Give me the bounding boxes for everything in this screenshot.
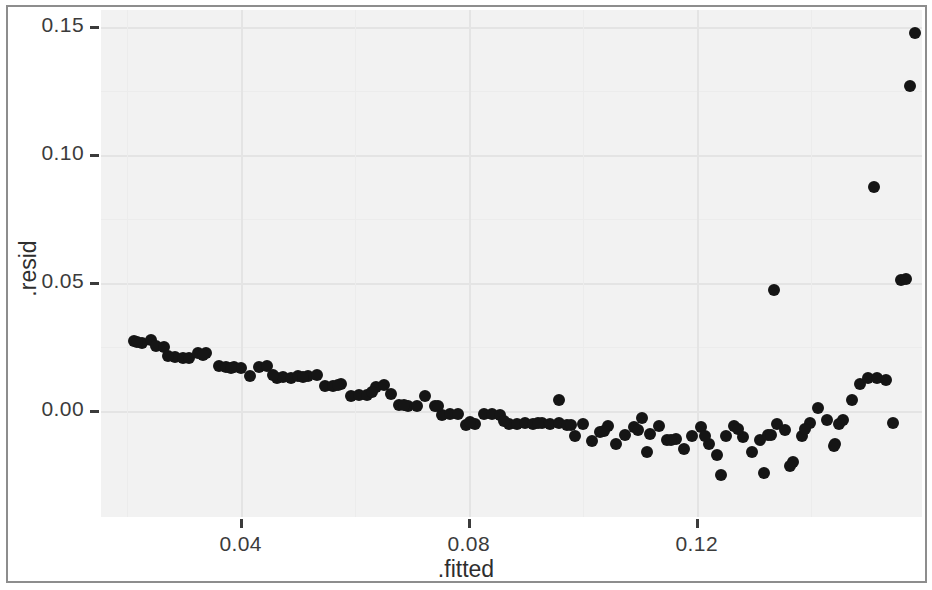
data-point [732,423,744,435]
data-point [900,273,912,285]
data-point [678,443,690,455]
data-point [821,414,833,426]
x-tick-label: 0.12 [676,532,718,556]
gridline-horizontal-major [101,283,922,285]
data-point [225,362,237,374]
gridline-horizontal-major [101,411,922,413]
data-point [411,400,423,412]
data-point [846,394,858,406]
data-point [904,80,916,92]
data-point [880,374,892,386]
data-point [311,369,323,381]
data-point [332,379,344,391]
data-point [131,336,143,348]
data-point [569,430,581,442]
data-point [653,420,665,432]
gridline-vertical-minor [583,10,584,517]
data-point [765,429,777,441]
data-point [565,419,577,431]
gridline-horizontal-major [101,27,922,29]
x-axis-label: .fitted [0,556,932,583]
gridline-vertical-major [241,10,243,517]
data-point [577,418,589,430]
y-tick-label: 0.10 [0,141,84,165]
data-point [720,430,732,442]
data-point [887,417,899,429]
y-tick-label: 0.15 [0,13,84,37]
data-point [366,386,378,398]
plot-panel [101,10,922,517]
data-point [828,440,840,452]
gridline-vertical-major [469,10,471,517]
data-point [498,415,510,427]
y-axis-label: .resid [15,214,42,324]
data-point [779,424,791,436]
data-point [746,446,758,458]
gridline-horizontal-minor [101,347,922,348]
gridline-horizontal-major [101,155,922,157]
figure-border-right [925,5,927,583]
data-point [758,467,770,479]
data-point [586,435,598,447]
data-point [665,434,677,446]
data-point [868,181,880,193]
data-point [636,412,648,424]
data-point [711,449,723,461]
data-point [532,417,544,429]
data-point [385,388,397,400]
data-point [598,425,610,437]
data-point [812,402,824,414]
data-point [162,350,174,362]
data-point [641,446,653,458]
x-tick-mark [240,519,243,528]
x-tick-mark [468,519,471,528]
y-tick-mark [90,154,99,157]
gridline-vertical-minor [811,10,812,517]
data-point [432,400,444,412]
data-point [715,469,727,481]
y-tick-mark [90,26,99,29]
gridline-horizontal-minor [101,219,922,220]
x-tick-mark [696,519,699,528]
gridline-horizontal-minor [101,91,922,92]
data-point [553,394,565,406]
data-point [632,424,644,436]
data-point [784,460,796,472]
y-tick-mark [90,282,99,285]
data-point [419,390,431,402]
y-tick-label: 0.00 [0,397,84,421]
data-point [267,369,279,381]
x-tick-label: 0.04 [219,532,261,556]
gridline-vertical-minor [355,10,356,517]
data-point [452,408,464,420]
gridline-vertical-minor [127,10,128,517]
y-axis-label-wrapper: .resid [6,210,46,330]
data-point [464,416,476,428]
data-point [398,399,410,411]
data-point [909,27,921,39]
scatter-plot-figure: 0.000.050.100.15 0.040.080.12 .resid .fi… [0,0,932,590]
data-point [833,418,845,430]
figure-border-top [6,5,927,7]
data-point [799,423,811,435]
y-tick-mark [90,410,99,413]
data-point [197,349,209,361]
gridline-vertical-major [697,10,699,517]
data-point [297,371,309,383]
x-tick-label: 0.08 [447,532,489,556]
data-point [768,284,780,296]
